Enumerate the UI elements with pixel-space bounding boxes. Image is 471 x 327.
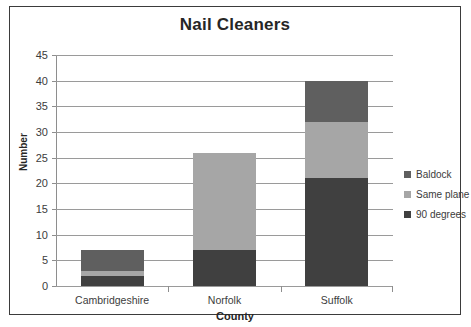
chart-frame: Nail Cleaners Number 051015202530354045 …: [9, 6, 461, 315]
x-tick-mark: [281, 286, 282, 292]
y-tick-label: 35: [36, 100, 48, 112]
bar-stack[interactable]: [305, 81, 368, 286]
y-tick-mark: [52, 132, 56, 133]
y-tick-mark: [52, 286, 56, 287]
bar-stack[interactable]: [81, 250, 144, 286]
bar-segment[interactable]: [193, 153, 256, 251]
legend-swatch-icon: [404, 171, 411, 178]
y-tick-label: 40: [36, 75, 48, 87]
x-tick-label: Cambridgeshire: [75, 294, 149, 306]
chart-title: Nail Cleaners: [10, 15, 460, 35]
x-tick-label: Suffolk: [321, 294, 353, 306]
legend-label: Baldock: [416, 169, 452, 180]
y-tick-mark: [52, 106, 56, 107]
legend-item[interactable]: Baldock: [404, 169, 471, 180]
y-tick-mark: [52, 183, 56, 184]
y-tick-mark: [52, 209, 56, 210]
x-tick-label: Norfolk: [208, 294, 241, 306]
bar-segment[interactable]: [305, 178, 368, 286]
y-tick-label: 15: [36, 203, 48, 215]
legend-label: Same plane: [416, 189, 469, 200]
gridline: 0: [56, 286, 393, 287]
x-axis-title: County: [10, 310, 460, 322]
legend-label: 90 degrees: [416, 209, 466, 220]
y-tick-label: 0: [42, 280, 48, 292]
chart-legend: BaldockSame plane90 degrees: [404, 169, 471, 229]
y-tick-label: 10: [36, 229, 48, 241]
y-tick-mark: [52, 260, 56, 261]
legend-item[interactable]: Same plane: [404, 189, 471, 200]
legend-item[interactable]: 90 degrees: [404, 209, 471, 220]
legend-swatch-icon: [404, 211, 411, 218]
y-axis-title: Number: [18, 133, 29, 171]
bar-segment[interactable]: [305, 122, 368, 178]
legend-swatch-icon: [404, 191, 411, 198]
bar-stack[interactable]: [193, 153, 256, 286]
bar-segment[interactable]: [81, 250, 144, 271]
y-tick-label: 5: [42, 254, 48, 266]
y-tick-mark: [52, 235, 56, 236]
bar-segment[interactable]: [81, 276, 144, 286]
y-tick-label: 20: [36, 177, 48, 189]
bar-segment[interactable]: [305, 81, 368, 122]
plot-area: 051015202530354045: [56, 55, 393, 286]
bar-segment[interactable]: [193, 250, 256, 286]
y-tick-label: 25: [36, 152, 48, 164]
bar-segment[interactable]: [81, 271, 144, 276]
y-tick-label: 30: [36, 126, 48, 138]
y-tick-label: 45: [36, 49, 48, 61]
y-tick-mark: [52, 158, 56, 159]
y-tick-mark: [52, 55, 56, 56]
x-tick-mark: [168, 286, 169, 292]
y-tick-mark: [52, 81, 56, 82]
x-tick-mark: [392, 286, 393, 292]
gridline: 45: [56, 55, 393, 56]
